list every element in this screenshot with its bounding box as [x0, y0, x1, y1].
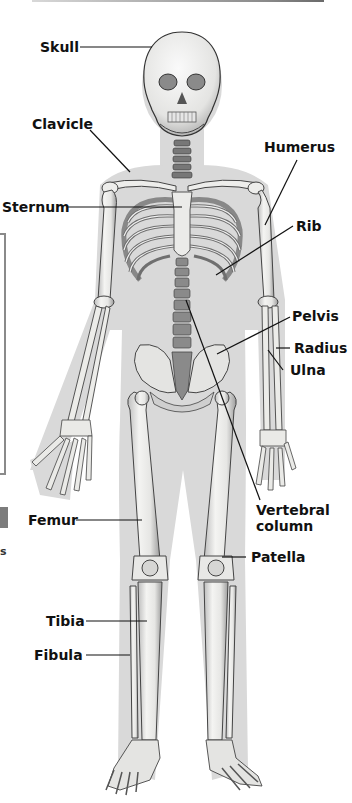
label-pelvis: Pelvis [292, 308, 339, 324]
label-vertebral-column-line2: column [256, 518, 313, 534]
label-sternum: Sternum [2, 199, 70, 215]
label-ulna: Ulna [290, 362, 326, 378]
label-humerus: Humerus [264, 139, 335, 155]
label-vertebral-column-line1: Vertebral [256, 502, 330, 518]
vertebral-column [173, 258, 191, 348]
label-radius: Radius [294, 340, 347, 356]
label-clavicle: Clavicle [32, 116, 93, 132]
label-fibula: Fibula [34, 647, 83, 663]
label-tibia: Tibia [46, 613, 85, 629]
cervical-vertebrae [172, 140, 192, 178]
leader-clavicle [90, 130, 130, 172]
lower-leg-bones [130, 582, 236, 740]
label-rib: Rib [296, 218, 322, 234]
label-patella: Patella [251, 549, 306, 565]
label-skull: Skull [40, 39, 79, 55]
leader-humerus [265, 160, 297, 225]
knee-joints [132, 556, 234, 580]
sternum-bone [172, 192, 192, 256]
label-femur: Femur [28, 512, 78, 528]
